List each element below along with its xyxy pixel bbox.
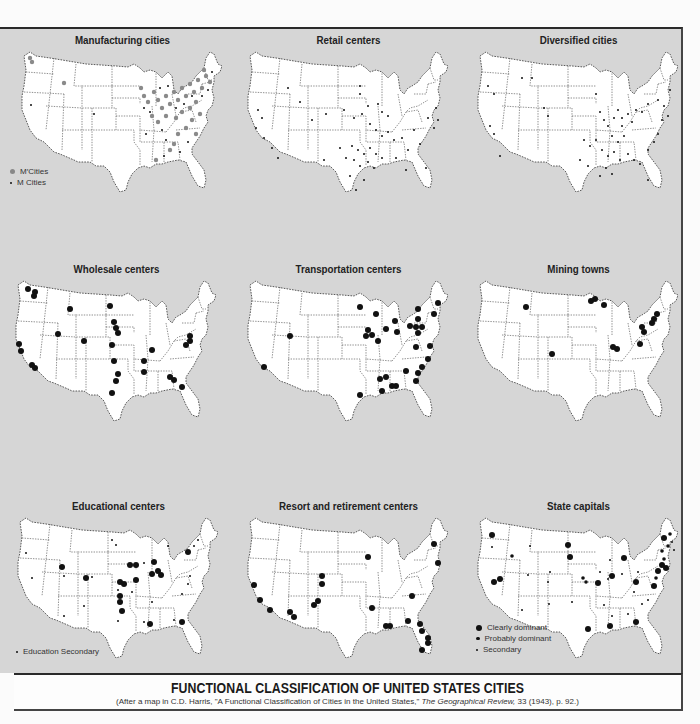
map-legend: Education Secondary (16, 646, 99, 657)
city-marker (647, 599, 649, 601)
city-marker (427, 117, 429, 119)
city-marker (671, 541, 673, 543)
city-marker (133, 562, 139, 568)
city-marker (160, 106, 164, 110)
city-marker (184, 94, 188, 98)
city-marker (359, 93, 361, 95)
city-marker (211, 71, 213, 73)
city-marker (603, 604, 605, 606)
city-marker (381, 135, 383, 137)
city-marker (59, 564, 65, 570)
map-title: Mining towns (483, 263, 674, 275)
city-marker (189, 575, 191, 577)
city-marker (599, 175, 601, 177)
city-marker (55, 331, 61, 337)
city-marker (151, 601, 153, 603)
city-marker (425, 356, 431, 362)
city-marker (359, 165, 361, 167)
city-marker (109, 342, 115, 348)
city-marker (147, 621, 153, 627)
city-marker (633, 619, 639, 625)
city-marker (339, 147, 341, 149)
city-marker (523, 304, 529, 310)
city-marker (431, 541, 437, 547)
us-map (10, 279, 225, 429)
city-marker (667, 115, 669, 117)
city-marker (287, 87, 289, 89)
city-marker (419, 364, 425, 370)
city-marker (666, 544, 670, 548)
city-marker (641, 603, 643, 605)
city-marker (149, 347, 155, 353)
city-marker (175, 107, 177, 109)
legend-marker-icon (476, 649, 478, 651)
city-marker (363, 333, 369, 339)
city-marker (491, 546, 493, 548)
city-marker (547, 581, 549, 583)
city-marker (30, 104, 32, 106)
city-marker (417, 621, 423, 627)
city-marker (197, 539, 199, 541)
city-marker (373, 311, 379, 317)
city-marker (363, 153, 365, 155)
city-marker (176, 132, 180, 136)
city-marker (131, 591, 133, 593)
city-marker (168, 148, 172, 152)
city-marker (413, 344, 419, 350)
city-marker (654, 311, 660, 317)
city-marker (107, 303, 113, 309)
city-marker (154, 158, 158, 162)
legend-item: M′Cities (10, 166, 48, 177)
city-marker (187, 141, 189, 143)
city-marker (343, 109, 345, 111)
city-marker (315, 598, 321, 604)
city-marker (635, 109, 637, 111)
city-marker (627, 113, 629, 115)
legend-label: Secondary (483, 644, 521, 655)
city-marker (585, 626, 591, 632)
city-marker (146, 100, 150, 104)
legend-marker-icon (476, 625, 482, 631)
us-map (242, 279, 457, 429)
city-marker (435, 300, 441, 306)
city-marker (257, 109, 259, 111)
city-marker (381, 111, 383, 113)
city-marker (263, 137, 265, 139)
city-marker (142, 94, 146, 98)
city-marker (627, 613, 629, 615)
city-marker (584, 580, 588, 584)
city-marker (167, 545, 169, 547)
city-marker (117, 589, 119, 591)
city-marker (649, 320, 655, 326)
city-marker (311, 119, 313, 121)
city-marker (31, 293, 37, 299)
us-map (472, 50, 687, 200)
legend-label: Probably dominant (485, 633, 552, 644)
city-marker (179, 151, 181, 153)
city-marker (150, 114, 154, 118)
city-marker (30, 60, 34, 64)
city-marker (387, 623, 393, 629)
city-marker (419, 647, 425, 653)
city-marker (633, 579, 639, 585)
city-marker (119, 608, 125, 614)
city-marker (194, 100, 198, 104)
city-marker (657, 99, 659, 101)
city-marker (607, 578, 609, 580)
city-marker (257, 597, 263, 603)
legend-item: Probably dominant (476, 633, 551, 644)
city-marker (660, 549, 664, 553)
city-marker (373, 167, 375, 169)
city-marker (143, 107, 145, 109)
city-marker (179, 384, 185, 390)
city-marker (357, 149, 359, 151)
city-marker (271, 147, 273, 149)
city-marker (375, 338, 381, 344)
map-mining-towns: Mining towns (466, 263, 691, 468)
city-marker (277, 157, 279, 159)
city-marker (579, 159, 581, 161)
city-marker (405, 618, 411, 624)
source-prefix: (After a map in C.D. Harris, "A Function… (116, 697, 419, 706)
city-marker (425, 167, 427, 169)
city-marker (299, 101, 301, 103)
